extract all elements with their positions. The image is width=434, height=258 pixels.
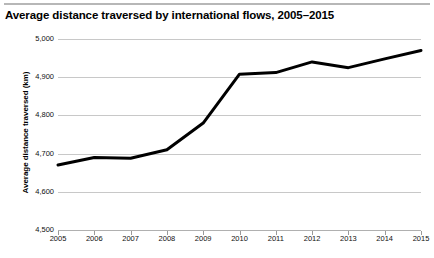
data-series-line	[0, 0, 434, 258]
footer-note	[60, 252, 420, 258]
plot-area: Average distance traversed (km) 5,0004,9…	[0, 0, 434, 258]
chart-figure: Average distance traversed by internatio…	[0, 0, 434, 258]
